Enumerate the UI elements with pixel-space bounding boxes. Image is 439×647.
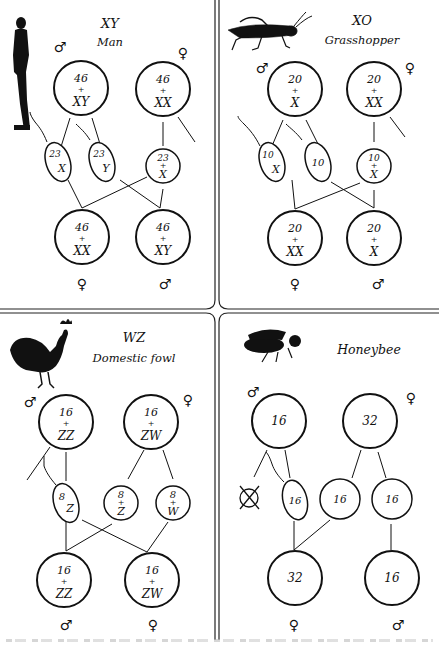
- svg-text:+: +: [371, 235, 378, 244]
- svg-text:46: 46: [155, 221, 170, 234]
- svg-text:16: 16: [333, 493, 347, 505]
- parent-cell-male: 46 + XY: [54, 61, 108, 115]
- sperm-no-x: 10: [300, 139, 335, 184]
- grasshopper-icon: [228, 12, 312, 50]
- svg-text:+: +: [79, 234, 86, 243]
- svg-text:+: +: [292, 86, 299, 95]
- honeybee-icon: [244, 330, 301, 362]
- svg-text:+: +: [149, 577, 156, 586]
- svg-text:16: 16: [271, 414, 287, 428]
- female-symbol: ♀: [183, 392, 193, 408]
- svg-text:46: 46: [73, 72, 88, 85]
- svg-text:16: 16: [289, 495, 302, 506]
- svg-text:X: X: [57, 162, 67, 175]
- svg-text:XX: XX: [72, 244, 91, 258]
- egg-z: 8 + Z: [104, 486, 138, 520]
- organism-label: Man: [96, 35, 123, 49]
- svg-text:X: X: [290, 96, 300, 110]
- female-symbol: ♀: [405, 60, 415, 76]
- system-label: XO: [351, 13, 372, 28]
- parent-cell-female: 16 + ZW: [124, 395, 178, 449]
- human-figure-icon: [13, 17, 30, 130]
- female-symbol: ♀: [148, 617, 158, 633]
- svg-text:XY: XY: [154, 244, 173, 258]
- svg-text:+: +: [63, 419, 70, 428]
- panel-fowl: WZ Domestic fowl ♂ ♀ 16 + ZZ 16 + ZW: [10, 319, 193, 633]
- svg-text:8: 8: [59, 491, 65, 502]
- panel-honeybee: Honeybee ♂ ♀ 16 32 16: [240, 330, 419, 633]
- male-symbol: ♂: [256, 60, 269, 76]
- svg-text:+: +: [371, 86, 378, 95]
- egg: 16: [320, 479, 360, 519]
- sperm-z: 8 Z: [48, 480, 83, 525]
- degenerate-gamete-icon: [240, 486, 259, 509]
- svg-text:Z: Z: [65, 502, 74, 515]
- male-symbol: ♂: [60, 617, 73, 633]
- offspring-cell-female: 32: [268, 551, 322, 605]
- offspring-cell-male: 20 + X: [347, 211, 401, 265]
- egg: 16: [372, 479, 412, 519]
- parent-cell-male: 16: [252, 394, 306, 448]
- svg-text:+: +: [148, 419, 155, 428]
- organism-label: Grasshopper: [325, 33, 401, 47]
- figure-canvas: XY Man ♂ ♀ 46 + XY 46 + XX: [0, 0, 439, 647]
- sperm-x: 23 X: [40, 139, 75, 184]
- svg-text:X: X: [271, 163, 281, 176]
- svg-text:16: 16: [385, 493, 399, 505]
- male-symbol: ♂: [54, 39, 67, 55]
- offspring-cell-male: 46 + XY: [136, 210, 190, 264]
- svg-text:16: 16: [384, 571, 400, 585]
- rooster-icon: [10, 319, 72, 388]
- male-symbol: ♂: [392, 617, 405, 633]
- svg-text:23: 23: [92, 149, 105, 159]
- svg-text:46: 46: [74, 221, 89, 234]
- svg-text:XX: XX: [153, 96, 172, 110]
- parent-cell-male: 20 + X: [268, 62, 322, 116]
- parent-cell-male: 16 + ZZ: [39, 395, 93, 449]
- svg-text:ZW: ZW: [140, 429, 163, 443]
- svg-text:16: 16: [57, 564, 71, 577]
- svg-text:X: X: [369, 168, 379, 181]
- svg-text:+: +: [61, 577, 68, 586]
- offspring-cell-female: 46 + XX: [55, 210, 109, 264]
- svg-text:+: +: [160, 234, 167, 243]
- svg-text:+: +: [160, 86, 167, 95]
- svg-text:32: 32: [362, 414, 377, 428]
- female-symbol: ♀: [77, 276, 87, 292]
- svg-text:16: 16: [59, 406, 73, 419]
- svg-text:16: 16: [144, 406, 158, 419]
- svg-text:+: +: [78, 85, 85, 94]
- svg-text:10: 10: [262, 150, 274, 160]
- parent-cell-female: 46 + XX: [136, 62, 190, 116]
- svg-text:ZW: ZW: [141, 587, 164, 601]
- organism-label: Honeybee: [336, 342, 401, 357]
- egg-x: 10 + X: [357, 149, 391, 183]
- svg-text:ZZ: ZZ: [57, 429, 75, 443]
- sperm-y: 23 Y: [84, 139, 119, 184]
- system-label: WZ: [123, 330, 146, 345]
- svg-text:XX: XX: [285, 245, 304, 259]
- system-label: XY: [100, 16, 120, 31]
- panel-man: XY Man ♂ ♀ 46 + XY 46 + XX: [13, 16, 195, 292]
- male-symbol: ♂: [24, 394, 37, 410]
- sperm: 16: [279, 478, 312, 523]
- offspring-cell-female: 20 + XX: [268, 211, 322, 265]
- female-symbol: ♀: [178, 45, 188, 61]
- svg-text:46: 46: [155, 73, 170, 86]
- svg-text:+: +: [292, 235, 299, 244]
- female-symbol: ♀: [290, 276, 300, 292]
- offspring-cell-female: 16 + ZW: [125, 553, 179, 607]
- svg-text:X: X: [369, 245, 379, 259]
- svg-text:XX: XX: [364, 96, 383, 110]
- organism-label: Domestic fowl: [92, 351, 176, 365]
- male-symbol: ♂: [247, 384, 260, 400]
- panel-grasshopper: XO Grasshopper ♂ ♀ 20 + X 20 + XX: [228, 12, 415, 292]
- svg-text:20: 20: [287, 73, 302, 86]
- egg-w: 8 + W: [156, 486, 190, 520]
- female-symbol: ♀: [406, 390, 416, 406]
- svg-text:XY: XY: [72, 95, 91, 109]
- svg-text:32: 32: [287, 571, 302, 585]
- parent-cell-female: 20 + XX: [347, 62, 401, 116]
- cropped-caption-strip: [6, 639, 433, 642]
- offspring-cell-male: 16: [365, 551, 419, 605]
